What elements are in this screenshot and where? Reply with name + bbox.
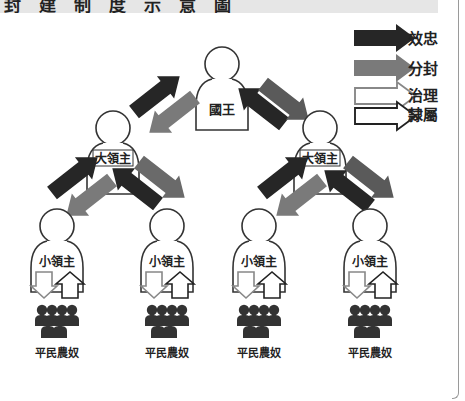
legend-item-loyalty: 效忠 (354, 24, 438, 52)
outline-gray-arrow-icon (355, 82, 416, 110)
king-left-arrows (125, 65, 203, 143)
node-lesser-lord-3: 小領主 (233, 209, 286, 298)
node-label: 平民農奴 (35, 346, 80, 360)
node-label: 國王 (209, 102, 235, 117)
solid-gray-arrow-icon (354, 54, 415, 82)
node-label: 大領主 (95, 151, 131, 166)
node-label: 小領主 (352, 254, 388, 269)
node-commoners-4: 平民農奴 (348, 305, 393, 360)
node-commoners-3: 平民農奴 (237, 305, 282, 360)
node-lesser-lord-1: 小領主 (31, 209, 84, 298)
legend: 效忠 分封 治理 隸屬 (354, 24, 438, 130)
node-commoners-1: 平民農奴 (35, 305, 80, 360)
node-label: 平民農奴 (348, 346, 393, 360)
legend-label: 隸屬 (407, 106, 438, 124)
outline-black-arrow-icon (355, 102, 416, 130)
node-label: 小領主 (241, 254, 277, 269)
solid-black-arrow-icon (354, 24, 415, 52)
legend-label: 效忠 (408, 30, 438, 48)
legend-item-fief: 分封 (354, 54, 438, 82)
node-label: 小領主 (39, 254, 75, 269)
people-group-icon (348, 305, 392, 338)
legend-label: 分封 (408, 60, 438, 78)
feudal-hierarchy-diagram: 效忠 分封 治理 隸屬 國王 大領主 大領主 (0, 0, 465, 401)
people-group-icon (35, 305, 79, 338)
node-lesser-lord-2: 小領主 (141, 209, 194, 298)
node-lesser-lord-4: 小領主 (344, 209, 397, 298)
legend-item-subordinate: 隸屬 (355, 102, 438, 130)
node-label: 小領主 (149, 254, 185, 269)
node-label: 平民農奴 (145, 346, 190, 360)
node-label: 平民農奴 (237, 346, 282, 360)
legend-label: 治理 (408, 87, 438, 105)
node-commoners-2: 平民農奴 (145, 305, 190, 360)
people-group-icon (237, 305, 281, 338)
people-group-icon (145, 305, 189, 338)
